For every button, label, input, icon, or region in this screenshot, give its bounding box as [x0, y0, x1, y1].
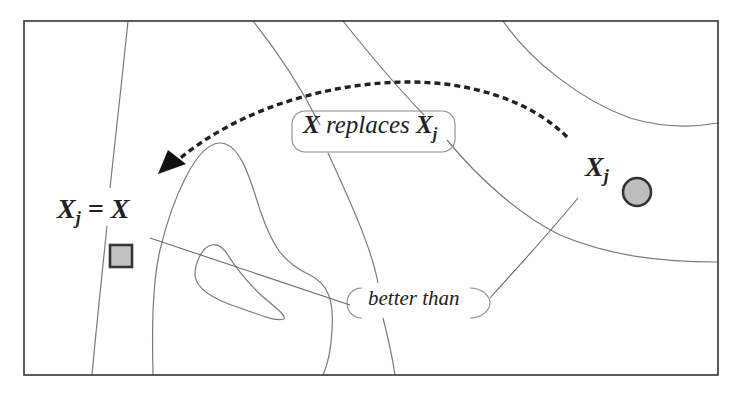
old-solution-label: Xj [585, 151, 609, 187]
contour-line-4b [447, 140, 718, 262]
old-solution-circle [623, 178, 651, 206]
replaces-verb: replaces [320, 111, 416, 138]
better-than-label: better than [368, 286, 460, 311]
contour-line-4 [343, 21, 424, 115]
contour-diagram: X replaces Xj better than Xj Xj = X [0, 0, 737, 395]
new-solution-rhs: X [111, 193, 130, 224]
new-solution-symbol: X [57, 193, 76, 224]
leader-line-old-solution [490, 198, 578, 298]
replaces-label: X replaces Xj [303, 111, 437, 144]
contour-line-5 [503, 21, 718, 126]
contour-line-1 [110, 21, 128, 188]
new-solution-square [110, 245, 132, 267]
contour-line-2 [153, 143, 333, 375]
contour-line-3b [328, 153, 378, 283]
new-solution-equals: = [81, 193, 111, 224]
old-solution-symbol: X [585, 151, 604, 182]
replacement-arrowhead-icon [158, 150, 186, 174]
replaces-subject: X [303, 111, 320, 138]
better-than-left-bracket [347, 288, 362, 318]
contour-inner-loop [195, 245, 284, 320]
old-solution-subscript: j [604, 166, 609, 186]
leader-line-new-solution [150, 238, 350, 305]
contour-line-3c [383, 318, 395, 375]
replaces-object: X [416, 111, 433, 138]
new-solution-label: Xj = X [57, 193, 129, 229]
contour-line-1b [92, 226, 107, 375]
better-than-right-bracket [470, 288, 490, 318]
replaces-object-subscript: j [433, 125, 438, 143]
